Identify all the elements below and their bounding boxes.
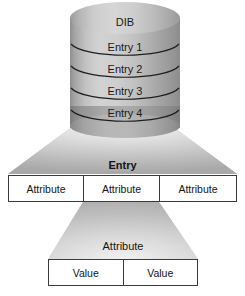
cylinder-entry-4: Entry 4 (70, 107, 180, 119)
value-cell-2: Value (124, 260, 198, 285)
entry-attribute-row: Attribute Attribute Attribute (8, 175, 237, 202)
dib-cylinder: DIB Entry 1 Entry 2 Entry 3 Entry 4 (70, 2, 180, 138)
cylinder-title-dib: DIB (70, 16, 180, 28)
attribute-value-row: Value Value (48, 259, 198, 286)
attribute-cell-1: Attribute (9, 176, 84, 201)
attribute-cell-3: Attribute (160, 176, 236, 201)
value-cell-1: Value (49, 260, 124, 285)
attribute-cell-2: Attribute (84, 176, 160, 201)
cylinder-entry-3: Entry 3 (70, 85, 180, 97)
dib-structure-diagram: DIB Entry 1 Entry 2 Entry 3 Entry 4 Entr… (0, 0, 245, 296)
cylinder-entry-1: Entry 1 (70, 41, 180, 53)
entry-caption: Entry (8, 159, 237, 171)
attribute-caption: Attribute (48, 240, 198, 252)
cylinder-entry-2: Entry 2 (70, 63, 180, 75)
